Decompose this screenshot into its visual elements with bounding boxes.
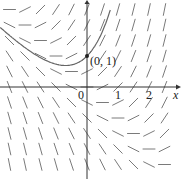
slope-segment [36, 67, 44, 75]
slope-segment [147, 35, 150, 47]
slope-segment [163, 19, 166, 31]
slope-segment [163, 66, 167, 77]
slope-segment [39, 143, 42, 155]
slope-segment [51, 38, 62, 43]
slope-segment [147, 50, 151, 61]
slope-segment [21, 52, 29, 60]
slope-segment [35, 22, 46, 27]
slope-segment [7, 66, 12, 77]
slope-segment [20, 38, 31, 43]
x-tick-label: 0 [78, 88, 84, 102]
slope-segment [20, 7, 31, 12]
slope-segment [163, 35, 166, 47]
slope-segment [132, 4, 135, 16]
slope-segment [54, 128, 58, 139]
slope-segment [99, 144, 106, 154]
slope-segment [144, 131, 155, 136]
slope-segment [4, 22, 15, 27]
slope-segment [8, 112, 11, 124]
slope-segment [115, 51, 120, 62]
slope-segment [67, 36, 75, 44]
slope-segment [128, 146, 139, 151]
initial-point-label: (0, 1) [90, 54, 116, 68]
slope-segment [6, 51, 13, 61]
slope-segment [131, 66, 136, 77]
slope-segment [52, 21, 60, 29]
slope-segment [39, 128, 43, 139]
slope-segment [129, 98, 137, 106]
slope-segment [66, 53, 77, 58]
slope-field-chart: (0, 1) x 012 [0, 0, 182, 179]
slope-segment [67, 98, 75, 106]
slope-segment [128, 115, 139, 120]
x-tick-label: 2 [146, 88, 152, 102]
slope-segment [144, 162, 155, 167]
slope-segment [97, 115, 108, 120]
slope-segment [24, 159, 27, 171]
slope-segment [69, 143, 73, 154]
slope-segment [70, 159, 74, 170]
slope-segment [163, 50, 166, 62]
slope-segment [23, 97, 27, 108]
x-tick-labels: 012 [78, 88, 152, 102]
slope-segment [163, 4, 165, 16]
slope-segment [101, 4, 105, 15]
slope-segment [116, 35, 120, 46]
slope-segment [113, 131, 124, 136]
x-axis-label: x [172, 88, 179, 102]
slope-segment [161, 113, 168, 123]
x-tick-label: 1 [115, 88, 121, 102]
slope-segment [8, 97, 12, 108]
slope-segment [115, 67, 122, 77]
slope-segment [100, 159, 105, 170]
slope-segment [148, 19, 151, 31]
slope-segment [68, 113, 75, 123]
slope-segment [116, 4, 119, 16]
slope-segment [148, 4, 151, 16]
slope-segment [53, 113, 58, 124]
slope-segment [162, 97, 167, 108]
slope-segment [98, 67, 106, 75]
slope-segment [8, 128, 11, 140]
slope-segment [38, 112, 42, 123]
slope-segment [8, 159, 10, 171]
slope-segment [38, 97, 43, 108]
slope-segment [24, 143, 27, 155]
slope-segment [36, 5, 44, 13]
slope-segment [69, 4, 74, 15]
slope-segment [115, 160, 122, 170]
slope-segment [147, 66, 151, 77]
slope-segment [23, 128, 26, 140]
slope-segment [98, 129, 106, 137]
slope-segment [68, 20, 75, 30]
slope-segment [145, 114, 153, 122]
slope-segment [132, 35, 136, 46]
slope-segment [114, 145, 122, 153]
slope-segment [8, 143, 11, 155]
slope-segment [51, 69, 62, 74]
slope-segment [132, 19, 135, 31]
slope-segment [160, 129, 168, 137]
initial-point-marker [85, 54, 89, 58]
slope-segment [129, 160, 137, 168]
slope-segment [22, 67, 29, 77]
slope-segment [53, 98, 60, 108]
y-axis-arrow [85, 0, 90, 4]
slope-segment [131, 50, 135, 61]
slope-segment [54, 143, 58, 154]
slope-segment [116, 19, 120, 30]
slope-segment [53, 5, 60, 15]
slope-segment [39, 159, 42, 171]
slope-segment [69, 128, 74, 139]
slope-segment [54, 159, 57, 171]
slope-segment [159, 146, 170, 151]
slope-segment [23, 112, 27, 123]
